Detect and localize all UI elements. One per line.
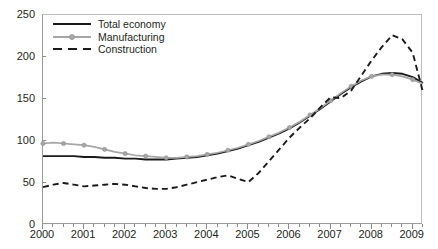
line-chart: 050100150200250 200020012002200320042005… xyxy=(0,0,438,249)
y-axis-tick-label: 200 xyxy=(17,50,35,62)
series-marker xyxy=(411,78,415,82)
y-axis-tick xyxy=(42,56,46,57)
x-axis-tick-minor xyxy=(422,224,423,227)
y-axis-tick xyxy=(42,182,46,183)
series-line-total-economy xyxy=(43,73,423,160)
legend-item-manufacturing[interactable]: Manufacturing xyxy=(52,31,166,44)
series-marker xyxy=(144,154,148,158)
x-axis-tick-minor xyxy=(145,224,146,227)
x-axis-tick-minor xyxy=(196,224,197,227)
x-axis-tick-minor xyxy=(227,224,228,227)
series-marker xyxy=(164,156,168,160)
x-axis-tick-major xyxy=(42,224,43,229)
series-marker xyxy=(103,147,107,151)
x-axis-tick-minor xyxy=(381,224,382,227)
legend-label: Manufacturing xyxy=(98,31,165,44)
x-axis-tick-minor xyxy=(299,224,300,227)
x-axis-tick-minor xyxy=(217,224,218,227)
x-axis-tick-minor xyxy=(176,224,177,227)
legend-swatch-total-economy-icon xyxy=(52,18,92,30)
x-axis-tick-minor xyxy=(63,224,64,227)
legend-label: Total economy xyxy=(98,18,166,31)
y-axis-tick xyxy=(42,98,46,99)
y-axis-tick-label: 150 xyxy=(17,92,35,104)
x-axis-tick-label: 2000 xyxy=(30,228,54,240)
x-axis-tick-minor xyxy=(340,224,341,227)
y-axis-tick xyxy=(42,140,46,141)
x-axis-tick-minor xyxy=(309,224,310,227)
series-marker xyxy=(267,135,271,139)
y-axis-tick-label: 250 xyxy=(17,8,35,20)
x-axis-tick-label: 2003 xyxy=(153,228,177,240)
x-axis: 2000200120022003200420052006200720082009 xyxy=(0,228,438,249)
x-axis-tick-minor xyxy=(134,224,135,227)
x-axis-tick-label: 2001 xyxy=(71,228,95,240)
legend-item-total-economy[interactable]: Total economy xyxy=(52,18,166,31)
chart-title-clipped xyxy=(0,0,438,6)
series-marker xyxy=(287,125,291,129)
series-line-manufacturing xyxy=(43,75,423,158)
y-axis: 050100150200250 xyxy=(0,0,42,249)
x-axis-tick-minor xyxy=(258,224,259,227)
x-axis-tick-label: 2009 xyxy=(399,228,423,240)
legend-label: Construction xyxy=(98,43,157,56)
x-axis-tick-minor xyxy=(155,224,156,227)
x-axis-tick-minor xyxy=(350,224,351,227)
x-axis-tick-major xyxy=(83,224,84,229)
x-axis-tick-minor xyxy=(73,224,74,227)
series-marker xyxy=(246,142,250,146)
series-marker xyxy=(61,141,65,145)
x-axis-tick-major xyxy=(206,224,207,229)
x-axis-tick-major xyxy=(371,224,372,229)
x-axis-tick-label: 2006 xyxy=(276,228,300,240)
x-axis-tick-minor xyxy=(360,224,361,227)
series-line-construction xyxy=(43,35,423,189)
x-axis-tick-minor xyxy=(319,224,320,227)
x-axis-tick-minor xyxy=(278,224,279,227)
x-axis-tick-major xyxy=(124,224,125,229)
x-axis-tick-label: 2007 xyxy=(317,228,341,240)
x-axis-tick-minor xyxy=(114,224,115,227)
x-axis-tick-minor xyxy=(104,224,105,227)
x-axis-tick-major xyxy=(288,224,289,229)
x-axis-tick-minor xyxy=(52,224,53,227)
legend-item-construction[interactable]: Construction xyxy=(52,43,166,56)
chart-legend: Total economyManufacturingConstruction xyxy=(52,18,166,56)
series-marker xyxy=(205,152,209,156)
x-axis-tick-label: 2002 xyxy=(112,228,136,240)
series-marker xyxy=(82,143,86,147)
series-marker xyxy=(390,73,394,77)
legend-swatch-construction-icon xyxy=(52,43,92,55)
x-axis-tick-major xyxy=(247,224,248,229)
x-axis-tick-major xyxy=(330,224,331,229)
x-axis-tick-label: 2004 xyxy=(194,228,218,240)
x-axis-tick-minor xyxy=(237,224,238,227)
x-axis-tick-minor xyxy=(401,224,402,227)
y-axis-tick-label: 50 xyxy=(23,176,35,188)
x-axis-tick-minor xyxy=(93,224,94,227)
series-marker xyxy=(41,141,45,145)
series-marker xyxy=(185,155,189,159)
series-marker xyxy=(370,74,374,78)
series-marker xyxy=(226,148,230,152)
x-axis-tick-major xyxy=(165,224,166,229)
x-axis-tick-minor xyxy=(268,224,269,227)
legend-swatch-manufacturing-icon xyxy=(52,31,92,43)
series-marker xyxy=(123,152,127,156)
y-axis-tick-label: 100 xyxy=(17,134,35,146)
x-axis-tick-label: 2005 xyxy=(235,228,259,240)
x-axis-tick-label: 2008 xyxy=(358,228,382,240)
x-axis-tick-minor xyxy=(391,224,392,227)
x-axis-tick-major xyxy=(412,224,413,229)
x-axis-tick-minor xyxy=(186,224,187,227)
